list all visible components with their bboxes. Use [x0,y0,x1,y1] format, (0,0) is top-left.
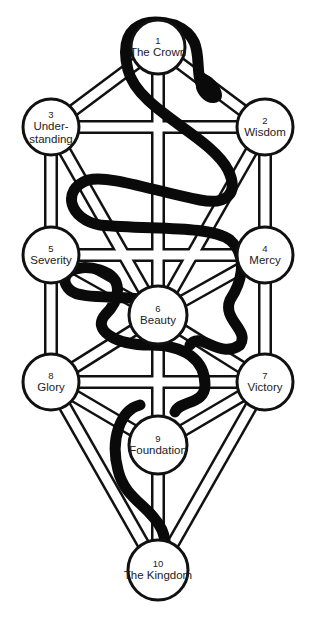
sephirah-number: 5 [30,243,72,254]
sephirah-number: 9 [129,433,187,444]
sephirah-name: The Kingdom [124,569,192,581]
label-mercy: 4 Mercy [249,243,280,267]
sephirah-name: Glory [37,381,64,393]
sephirah-number: 10 [124,558,192,569]
sephirah-name: Beauty [140,314,176,326]
sephirah-number: 4 [249,243,280,254]
label-victory: 7 Victory [248,370,283,394]
sephirah-name-line2: standing [29,133,72,146]
sephirah-name-line1: Under- [29,120,72,133]
sephirah-name: Wisdom [244,126,286,138]
sephirah-name: Mercy [249,254,280,266]
sephirah-number: 6 [140,303,176,314]
label-wisdom: 2 Wisdom [244,115,286,139]
sephirah-name: The Crown [130,46,186,58]
sephirah-name: Victory [248,381,283,393]
sephirah-number: 1 [130,35,186,46]
sephirah-name: Severity [30,254,72,266]
label-severity: 5 Severity [30,243,72,267]
label-crown: 1 The Crown [130,35,186,59]
label-beauty: 6 Beauty [140,303,176,327]
sephirah-number: 8 [37,370,64,381]
sephirah-number: 7 [248,370,283,381]
label-foundation: 9 Foundation [129,433,187,457]
label-glory: 8 Glory [37,370,64,394]
sephirah-number: 2 [244,115,286,126]
label-kingdom: 10 The Kingdom [124,558,192,582]
sephirah-name: Foundation [129,444,187,456]
sephirah-number: 3 [29,109,72,120]
label-understanding: 3 Under- standing [29,109,72,146]
